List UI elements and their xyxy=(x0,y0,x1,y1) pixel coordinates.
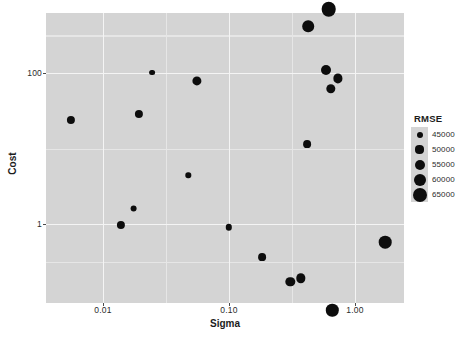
data-point xyxy=(135,109,143,117)
legend-item-label: 45000 xyxy=(432,130,455,139)
legend-dot-icon xyxy=(413,188,427,202)
data-point xyxy=(130,205,137,212)
gridline-y-minor xyxy=(46,35,404,36)
legend-item: 45000 xyxy=(411,127,475,142)
data-point xyxy=(303,140,311,148)
data-point xyxy=(149,70,155,76)
legend-dot-icon xyxy=(414,174,426,186)
data-point xyxy=(286,277,295,286)
y-tickmark xyxy=(43,224,46,225)
y-axis-title: Cost xyxy=(7,134,18,194)
gridline-x-0.01 xyxy=(103,13,104,303)
data-point xyxy=(379,236,392,249)
legend-item: 60000 xyxy=(411,172,475,187)
gridline-x-1.00 xyxy=(355,13,356,303)
data-point xyxy=(258,254,266,262)
gridline-x-minor xyxy=(166,13,167,303)
data-point xyxy=(326,304,338,316)
legend-item-label: 50000 xyxy=(432,145,455,154)
gridline-y-minor xyxy=(46,262,404,263)
data-point xyxy=(333,74,342,83)
y-tick-label: 1 xyxy=(0,219,42,229)
data-point xyxy=(67,116,75,124)
gridline-x-minor xyxy=(292,13,293,303)
legend-key-swatch xyxy=(411,142,428,157)
legend-dot-icon xyxy=(415,160,425,170)
legend-key-swatch xyxy=(411,187,428,202)
legend-item-label: 65000 xyxy=(432,190,455,199)
gridline-x-0.10 xyxy=(229,13,230,303)
data-point xyxy=(322,2,337,17)
data-point xyxy=(186,173,191,178)
legend-title: RMSE xyxy=(414,113,475,124)
data-point xyxy=(303,20,315,32)
x-axis-title: Sigma xyxy=(46,318,404,329)
plot-panel xyxy=(46,13,404,303)
y-tick-label: 100 xyxy=(0,68,42,78)
data-point xyxy=(321,65,331,75)
legend-items: 4500050000550006000065000 xyxy=(411,127,475,202)
scatter-plot-figure: 0.010.101.00 1100 Sigma Cost RMSE 450005… xyxy=(0,0,476,343)
gridline-y-100 xyxy=(46,73,404,74)
legend-item-label: 60000 xyxy=(432,175,455,184)
legend-dot-icon xyxy=(417,132,423,138)
data-point xyxy=(226,224,232,230)
data-point xyxy=(296,274,305,283)
x-tick-label: 0.01 xyxy=(94,305,111,315)
legend-dot-icon xyxy=(415,145,423,153)
x-tick-label: 0.10 xyxy=(220,305,237,315)
x-tick-label: 1.00 xyxy=(346,305,363,315)
legend-item: 50000 xyxy=(411,142,475,157)
legend-item-label: 55000 xyxy=(432,160,455,169)
legend-key-swatch xyxy=(411,127,428,142)
legend-item: 55000 xyxy=(411,157,475,172)
legend-key-swatch xyxy=(411,172,428,187)
data-point xyxy=(326,84,335,93)
legend-key-swatch xyxy=(411,157,428,172)
data-point xyxy=(117,221,125,229)
legend-item: 65000 xyxy=(411,187,475,202)
y-tickmark xyxy=(43,73,46,74)
data-point xyxy=(193,76,202,85)
gridline-y-minor xyxy=(46,149,404,150)
legend: RMSE 4500050000550006000065000 xyxy=(411,113,475,202)
